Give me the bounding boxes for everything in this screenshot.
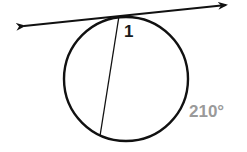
chord — [100, 16, 119, 136]
angle-label: 1 — [124, 22, 133, 41]
arc-measure-label: 210° — [189, 102, 224, 121]
geometry-diagram: 1 210° — [0, 0, 247, 152]
